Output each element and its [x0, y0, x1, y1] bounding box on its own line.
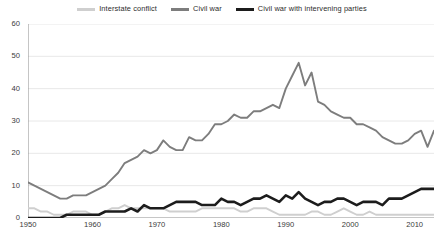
y-axis-labels: 0102030405060 — [0, 24, 24, 218]
x-tick-label-1990: 1990 — [277, 221, 294, 229]
y-tick-label-50: 50 — [12, 53, 20, 61]
y-tick-label-20: 20 — [12, 150, 20, 158]
x-tick-label-1950: 1950 — [20, 221, 37, 229]
x-axis-labels: 1950196019701980199020002010 — [28, 221, 434, 235]
legend-item-civil-war: Civil war — [171, 5, 222, 12]
legend-item-civil-war-intervening: Civil war with intervening parties — [236, 5, 367, 12]
legend-swatch-civil-war — [171, 8, 189, 11]
x-tick-label-1970: 1970 — [148, 221, 165, 229]
legend-swatch-civil-war-intervening — [236, 8, 254, 11]
x-tick-label-1980: 1980 — [213, 221, 230, 229]
y-tick-label-30: 30 — [12, 117, 20, 125]
chart-legend: Interstate conflict Civil war Civil war … — [0, 0, 444, 18]
legend-label-civil-war: Civil war — [193, 5, 222, 12]
x-tick-label-2010: 2010 — [406, 221, 423, 229]
legend-label-civil-war-intervening: Civil war with intervening parties — [258, 5, 367, 12]
y-tick-label-60: 60 — [12, 20, 20, 28]
legend-label-interstate-conflict: Interstate conflict — [99, 5, 157, 12]
chart-svg — [28, 24, 434, 218]
plot-area — [28, 24, 434, 218]
legend-swatch-interstate-conflict — [77, 8, 95, 11]
chart-container: Interstate conflict Civil war Civil war … — [0, 0, 444, 242]
x-tick-label-2000: 2000 — [342, 221, 359, 229]
series-line-civil-war — [28, 63, 434, 199]
legend-item-interstate-conflict: Interstate conflict — [77, 5, 157, 12]
y-tick-label-10: 10 — [12, 182, 20, 190]
series-line-interstate-conflict — [28, 205, 434, 215]
x-tick-label-1960: 1960 — [84, 221, 101, 229]
y-tick-label-40: 40 — [12, 85, 20, 93]
